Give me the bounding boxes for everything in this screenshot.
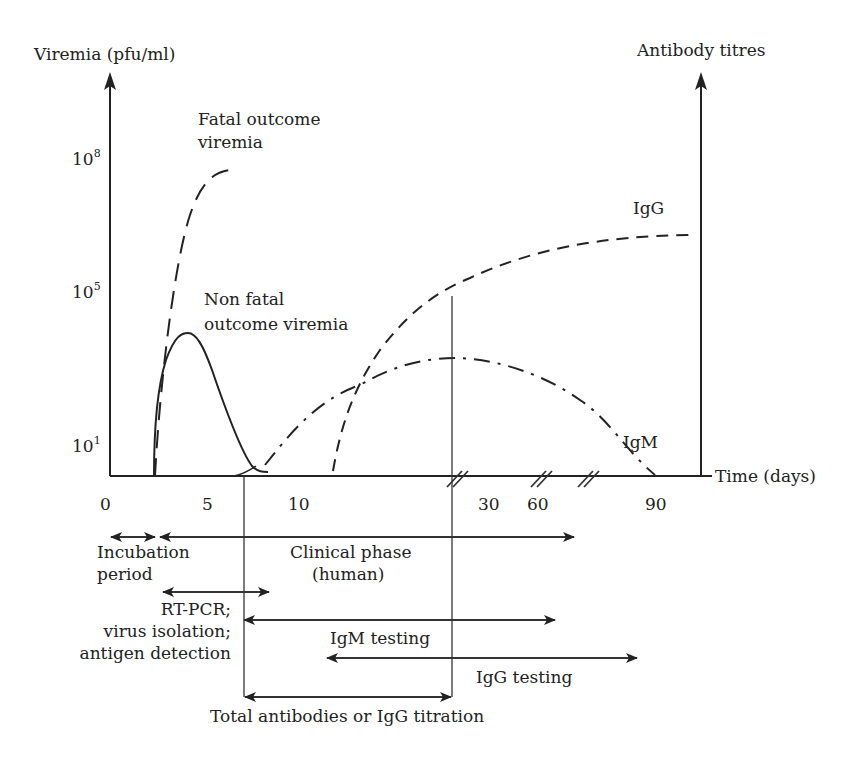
interval-label-rtpcr: antigen detection bbox=[80, 643, 232, 663]
left-axis-label: Viremia (pfu/ml) bbox=[33, 44, 175, 64]
axis-break bbox=[578, 471, 599, 487]
interval-label-rtpcr: virus isolation; bbox=[103, 621, 231, 641]
interval-label-clinical: Clinical phase bbox=[290, 542, 412, 562]
interval-label-clinical: (human) bbox=[312, 564, 384, 584]
x-tick-label: 90 bbox=[645, 494, 667, 514]
series-igm-curve bbox=[265, 358, 655, 475]
interval-label-igm-testing: IgM testing bbox=[330, 628, 430, 648]
x-axis-label: Time (days) bbox=[715, 466, 816, 486]
right-axis-label: Antibody titres bbox=[636, 40, 766, 60]
y-tick-label: 101 bbox=[72, 434, 101, 456]
interval-label-igg-testing: IgG testing bbox=[476, 667, 572, 687]
x-tick-label: 0 bbox=[100, 494, 111, 514]
y-tick-label: 108 bbox=[72, 147, 101, 169]
axis-break bbox=[531, 471, 552, 487]
interval-label-rtpcr: RT-PCR; bbox=[161, 599, 231, 619]
series-label-fatal: Fatal outcome bbox=[198, 109, 321, 129]
x-tick-label: 10 bbox=[288, 494, 310, 514]
curve-junction bbox=[234, 466, 256, 476]
interval-label-incubation: period bbox=[97, 564, 153, 584]
series-label-igg: IgG bbox=[633, 198, 664, 218]
y-tick-label: 105 bbox=[72, 280, 101, 302]
x-tick-label: 30 bbox=[478, 494, 500, 514]
series-label-fatal: viremia bbox=[197, 132, 263, 152]
x-tick-label: 60 bbox=[527, 494, 549, 514]
interval-label-total-antibodies: Total antibodies or IgG titration bbox=[210, 706, 484, 726]
series-nonfatal-viremia-curve bbox=[154, 333, 268, 476]
series-label-nonfatal: Non fatal bbox=[204, 289, 284, 309]
x-tick-label: 5 bbox=[202, 494, 213, 514]
interval-label-incubation: Incubation bbox=[97, 542, 190, 562]
viremia-antibody-diagram: Viremia (pfu/ml) Antibody titres Time (d… bbox=[0, 0, 855, 760]
axis-break bbox=[447, 471, 468, 487]
series-label-nonfatal: outcome viremia bbox=[204, 314, 348, 334]
series-label-igm: IgM bbox=[623, 432, 658, 452]
